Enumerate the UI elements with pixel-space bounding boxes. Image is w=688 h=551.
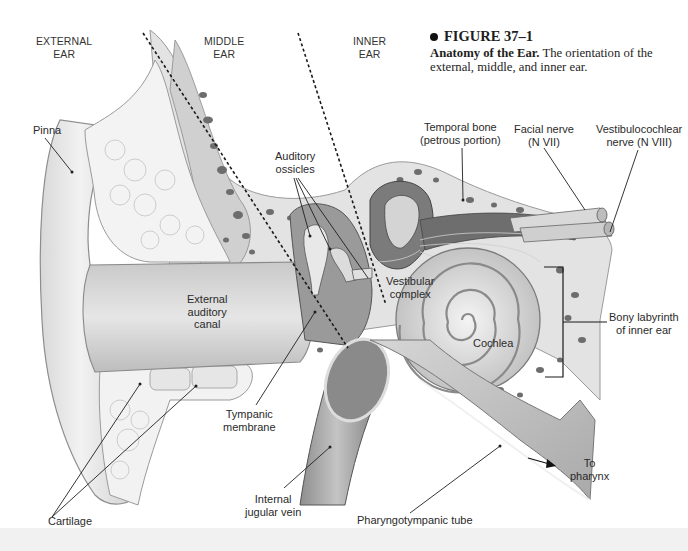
label-external-auditory-canal: External auditory canal	[187, 293, 227, 331]
figure-description: Anatomy of the Ear. The orientation of t…	[430, 46, 685, 74]
bullet-icon	[430, 33, 438, 41]
label-vestibular-complex: Vestibular complex	[386, 275, 434, 300]
label-cochlea: Cochlea	[473, 337, 513, 350]
figure-number-text: FIGURE 37–1	[444, 28, 533, 45]
label-to-pharynx: To pharynx	[570, 457, 609, 482]
label-tympanic-membrane: Tympanic membrane	[223, 408, 276, 433]
label-pharyngotympanic-tube: Pharyngotympanic tube	[357, 514, 473, 527]
label-cartilage: Cartilage	[48, 515, 92, 528]
label-vestibulocochlear-nerve: Vestibulocochlear nerve (N VIII)	[596, 123, 682, 148]
region-label-inner-ear: INNER EAR	[353, 35, 386, 60]
figure-caption: FIGURE 37–1 Anatomy of the Ear. The orie…	[430, 28, 685, 74]
figure-number: FIGURE 37–1	[430, 28, 685, 45]
label-auditory-ossicles: Auditory ossicles	[275, 150, 315, 175]
label-pinna: Pinna	[33, 124, 61, 137]
region-label-external-ear: EXTERNAL EAR	[36, 35, 92, 60]
label-bony-labyrinth: Bony labyrinth of inner ear	[609, 311, 679, 336]
label-temporal-bone: Temporal bone (petrous portion)	[420, 121, 501, 146]
region-label-middle-ear: MIDDLE EAR	[204, 35, 244, 60]
label-facial-nerve: Facial nerve (N VII)	[514, 123, 574, 148]
label-internal-jugular-vein: Internal jugular vein	[245, 493, 301, 518]
internal-jugular-vein-shape	[300, 330, 400, 505]
ear-anatomy-figure: EXTERNAL EAR MIDDLE EAR INNER EAR FIGURE…	[0, 0, 688, 551]
figure-title: Anatomy of the Ear.	[430, 46, 539, 60]
